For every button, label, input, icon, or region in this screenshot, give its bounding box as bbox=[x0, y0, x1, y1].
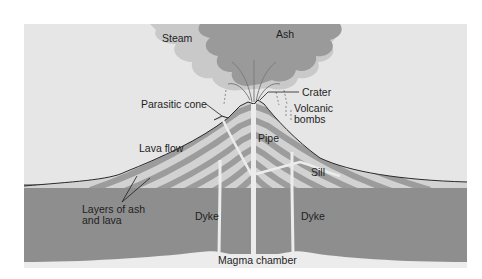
label-volcanic-bombs-2: bombs bbox=[294, 113, 326, 125]
label-dyke-left: Dyke bbox=[195, 210, 219, 222]
label-sill: Sill bbox=[311, 166, 325, 178]
label-layers-2: and lava bbox=[82, 214, 122, 226]
label-dyke-right: Dyke bbox=[301, 210, 325, 222]
dyke-left bbox=[219, 160, 220, 254]
label-magma-chamber: Magma chamber bbox=[218, 254, 297, 266]
main-pipe bbox=[251, 104, 256, 256]
label-lava-flow: Lava flow bbox=[139, 142, 184, 154]
dyke-right bbox=[292, 152, 293, 254]
label-ash: Ash bbox=[276, 28, 294, 40]
label-crater: Crater bbox=[302, 86, 332, 98]
volcano-diagram: Steam Ash Crater Volcanic bombs Parasiti… bbox=[0, 0, 482, 279]
label-parasitic-cone: Parasitic cone bbox=[141, 98, 207, 110]
label-pipe: Pipe bbox=[258, 132, 279, 144]
label-steam: Steam bbox=[162, 32, 193, 44]
